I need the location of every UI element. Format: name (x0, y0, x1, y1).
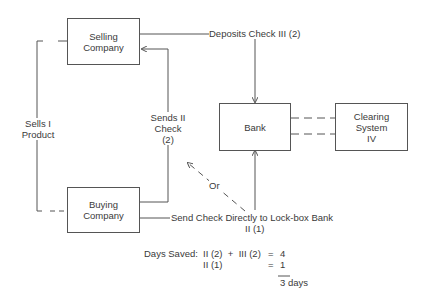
buying-company-node: BuyingCompany (67, 187, 140, 233)
deposits-check-label: Deposits Check III (2) (209, 28, 300, 39)
clearing-line1: Clearing (354, 111, 389, 122)
send-direct-label: Send Check Directly to Lock-box Bank (171, 212, 333, 223)
row2-value: 1 (280, 259, 285, 270)
sends-line1: Sends II (148, 112, 188, 123)
sends-line2: Check (148, 123, 188, 134)
sells-line2: Product (20, 129, 56, 140)
clearing-line3: IV (354, 133, 389, 144)
buying-line1: Buying (83, 199, 124, 210)
row1-equals: = (268, 248, 274, 259)
sells-product-label: Sells I Product (20, 118, 56, 140)
sends-line3: (2) (148, 134, 188, 145)
row1-value: 4 (280, 248, 285, 259)
row2-expression: II (1) (203, 259, 223, 270)
bank-node: Bank (219, 103, 291, 151)
selling-line2: Company (83, 42, 124, 53)
sends-check-label: Sends II Check (2) (148, 112, 188, 145)
buying-line2: Company (83, 210, 124, 221)
or-label: Or (209, 180, 220, 191)
send-direct-code: II (1) (245, 223, 265, 234)
selling-company-node: SellingCompany (67, 18, 140, 65)
row1-expression: II (2) + III (2) (203, 248, 261, 259)
clearing-line2: System (354, 122, 389, 133)
bank-label: Bank (244, 122, 266, 133)
days-saved-title: Days Saved: (144, 248, 198, 259)
clearing-system-node: ClearingSystemIV (335, 103, 408, 151)
selling-line1: Selling (83, 31, 124, 42)
row2-equals: = (268, 259, 274, 270)
sells-line1: Sells I (20, 118, 56, 129)
result-value: 3 days (280, 277, 308, 288)
